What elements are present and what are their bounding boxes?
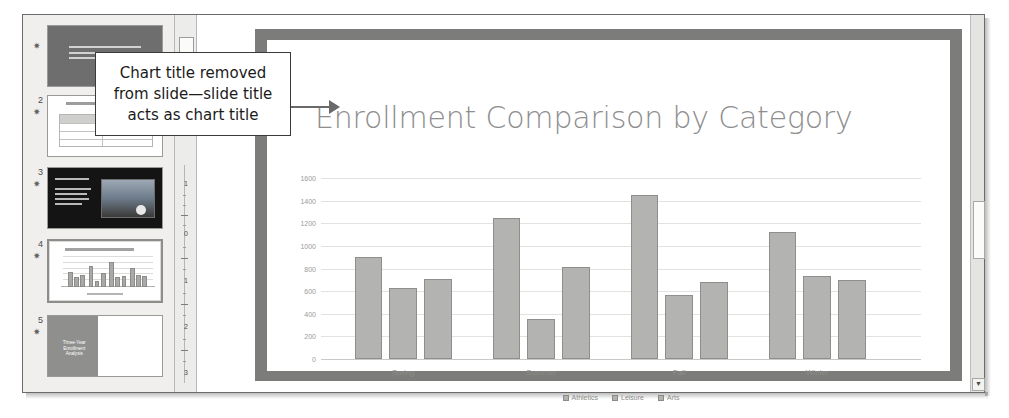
ruler-mark-2: 1: [175, 277, 197, 285]
window-shadow-right: [985, 18, 991, 396]
bar-spring-athletics[interactable]: [355, 257, 383, 359]
thumbnail-slide-4[interactable]: 4 ✷: [23, 239, 175, 303]
y-tick-label: 1600: [300, 175, 316, 182]
ruler-mark-1: 0: [175, 230, 197, 238]
thumbnail-number-5: 5: [27, 315, 43, 325]
thumbnail-content-5: Three-Year Enrollment Analysis: [48, 316, 162, 376]
thumbnail-frame-5[interactable]: Three-Year Enrollment Analysis: [47, 315, 163, 377]
y-tick-label: 1000: [300, 242, 316, 249]
x-tick-label-winter: Winter: [806, 368, 829, 377]
thumbnail-slide-5[interactable]: 5 ✷ Three-Year Enrollment Analysis: [23, 315, 175, 377]
legend-label: Leisure: [621, 394, 644, 401]
legend-swatch-icon: [563, 395, 569, 401]
bar-summer-athletics[interactable]: [493, 218, 521, 359]
legend-item-leisure[interactable]: Leisure: [612, 394, 644, 401]
ruler-mark-0: 1: [175, 180, 197, 188]
legend-label: Arts: [667, 394, 679, 401]
animation-star-icon: ✷: [31, 251, 43, 261]
bar-fall-leisure[interactable]: [665, 295, 693, 359]
scroll-down-icon[interactable]: ▼: [972, 378, 985, 391]
chart-legend: Athletics Leisure Arts: [321, 394, 921, 401]
legend-swatch-icon: [612, 395, 618, 401]
y-tick-label: 400: [304, 310, 316, 317]
slide-canvas[interactable]: Enrollment Comparison by Category 1600 1…: [267, 40, 950, 371]
bar-winter-leisure[interactable]: [803, 276, 831, 359]
y-tick-label: 200: [304, 333, 316, 340]
y-tick-label: 1200: [300, 220, 316, 227]
legend-label: Athletics: [572, 394, 598, 401]
y-tick-label: 600: [304, 288, 316, 295]
legend-item-arts[interactable]: Arts: [658, 394, 679, 401]
chart-object[interactable]: 1600 1400 1200 1000 800 600: [275, 170, 935, 400]
callout-arrow-icon: [329, 100, 340, 114]
legend-item-athletics[interactable]: Athletics: [563, 394, 598, 401]
thumbnail-content-3: [48, 168, 162, 228]
y-tick-label: 1400: [300, 197, 316, 204]
y-tick-label: 800: [304, 265, 316, 272]
bar-fall-arts[interactable]: [700, 282, 728, 359]
slide-editing-stage: Enrollment Comparison by Category 1600 1…: [197, 15, 984, 392]
ruler-mark-4: 3: [175, 369, 197, 377]
ruler-mark-3: 2: [175, 323, 197, 331]
animation-star-icon: ✷: [31, 327, 43, 337]
bar-fall-athletics[interactable]: [631, 195, 659, 359]
annotation-callout: Chart title removed from slide—slide tit…: [95, 52, 291, 136]
thumbnail-number-4: 4: [27, 239, 43, 249]
x-tick-label-fall: Fall: [673, 368, 686, 377]
thumbnail-frame-3[interactable]: [47, 167, 163, 229]
thumbnail-slide-3[interactable]: 3 ✷: [23, 167, 175, 229]
thumbnail-number-2: 2: [27, 95, 43, 105]
slide-title[interactable]: Enrollment Comparison by Category: [315, 100, 915, 135]
bar-summer-leisure[interactable]: [527, 319, 555, 359]
x-tick-label-summer: Summer: [526, 368, 556, 377]
bar-winter-arts[interactable]: [838, 280, 866, 359]
thumbnail-number-3: 3: [27, 167, 43, 177]
bar-summer-arts[interactable]: [562, 267, 590, 359]
animation-star-icon: ✷: [31, 179, 43, 189]
scrollbar-thumb[interactable]: [973, 201, 985, 259]
thumbnail-frame-4-selected[interactable]: [47, 239, 163, 303]
vertical-scrollbar[interactable]: ▼: [970, 15, 984, 392]
thumbnail-caption-5: Three-Year Enrollment Analysis: [55, 340, 94, 357]
slide-frame: Enrollment Comparison by Category 1600 1…: [255, 29, 962, 381]
screenshot-root: ✷ 2 ✷: [0, 0, 1009, 418]
legend-swatch-icon: [658, 395, 664, 401]
bar-spring-leisure[interactable]: [389, 288, 417, 359]
callout-leader-line: [291, 106, 331, 108]
y-tick-label: 0: [312, 356, 316, 363]
chart-plot-area: 1600 1400 1200 1000 800 600: [321, 178, 921, 359]
thumbnail-content-4: [50, 242, 160, 300]
bar-winter-athletics[interactable]: [769, 232, 797, 359]
animation-star-icon: ✷: [31, 41, 43, 51]
bar-spring-arts[interactable]: [424, 279, 452, 359]
animation-star-icon: ✷: [31, 107, 43, 117]
x-tick-label-spring: Spring: [392, 368, 415, 377]
